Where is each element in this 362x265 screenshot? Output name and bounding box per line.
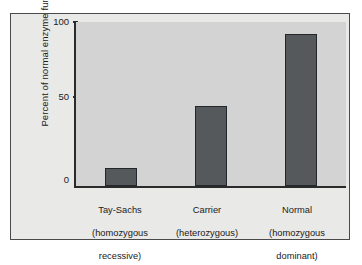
x-label-line: (heterozygous) — [161, 228, 253, 239]
plot-area — [74, 22, 346, 188]
bar-carrier — [195, 106, 227, 187]
x-label-line: (homozygous — [251, 228, 343, 239]
y-tick-50: 50 — [11, 97, 72, 98]
chart-panel: Percent of normal enzyme function 100 50… — [10, 13, 350, 240]
y-tick-100: 100 — [11, 22, 72, 23]
y-tick-0: 0 — [11, 180, 72, 181]
x-label-tay-sachs: Tay-Sachs (homozygous recessive) — [74, 194, 166, 265]
x-label-line: Carrier — [161, 205, 253, 216]
bar-normal — [285, 34, 317, 186]
x-label-line: recessive) — [74, 251, 166, 262]
bar-tay-sachs — [105, 168, 137, 186]
x-label-line: dominant) — [251, 251, 343, 262]
x-label-normal: Normal (homozygous dominant) — [251, 194, 343, 265]
x-label-line: Tay-Sachs — [74, 205, 166, 216]
y-tick-label-0: 0 — [64, 173, 69, 186]
x-label-line: Normal — [251, 205, 343, 216]
y-tick-label-100: 100 — [53, 15, 69, 28]
y-tick-label-50: 50 — [58, 90, 69, 103]
y-axis-title: Percent of normal enzyme function — [39, 0, 50, 137]
x-label-line: (homozygous — [74, 228, 166, 239]
x-label-carrier: Carrier (heterozygous) — [161, 194, 253, 251]
